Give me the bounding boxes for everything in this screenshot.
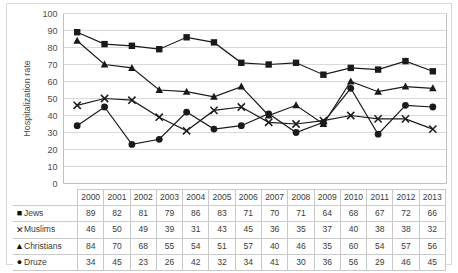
data-point [155,86,163,93]
table-column-header: 2010 [340,190,366,206]
table-cell: 26 [156,254,182,270]
table-column-header: 2007 [261,190,287,206]
table-cell: 71 [235,206,261,222]
y-axis-tick-label: 100 [42,9,57,19]
table-row: ✕Muslims4650493931434536353740383832 [13,222,446,238]
chart-svg: 0102030405060708090100Hospitalization ra… [0,0,458,190]
data-point [293,129,300,136]
table-cell: 72 [393,206,419,222]
table-cell: 68 [340,206,366,222]
line-chart: 0102030405060708090100Hospitalization ra… [0,0,458,190]
table-cell: 56 [419,238,445,254]
data-point [238,122,245,129]
series-marker-icon: ✕ [15,223,24,238]
table-cell: 54 [183,238,209,254]
data-point [238,83,246,90]
data-point [129,43,135,49]
table-cell: 67 [367,206,393,222]
table-row: ■Jews8982817986837170716468677266 [13,206,446,222]
data-point [402,83,410,90]
table-cell: 36 [261,222,287,238]
table-cell: 50 [104,222,130,238]
data-point [101,104,108,111]
data-point [347,85,354,92]
table-cell: 45 [419,254,445,270]
y-axis-tick-label: 30 [47,128,57,138]
y-axis-tick-label: 80 [47,43,57,53]
y-axis-tick-label: 10 [47,162,57,172]
series-marker-icon: ■ [15,206,24,221]
table-cell: 49 [130,222,156,238]
series-line [77,99,433,131]
table-cell: 82 [104,206,130,222]
table-row: ▲Christians8470685554515740463560545756 [13,238,446,254]
table-header-row: 2000200120022003200420052006200720082009… [13,190,446,206]
table-cell: 45 [104,254,130,270]
table-cell: 68 [130,238,156,254]
table-cell: 29 [367,254,393,270]
table-cell: 37 [314,222,340,238]
table-cell: 35 [314,238,340,254]
table-cell: 46 [78,222,104,238]
table-cell: 57 [393,238,419,254]
table-corner-cell [13,190,78,206]
data-point [429,104,436,111]
series-legend-cell: ●Druze [13,254,78,270]
table-cell: 38 [367,222,393,238]
y-axis-tick-label: 50 [47,94,57,104]
table-cell: 39 [156,222,182,238]
table-cell: 46 [288,238,314,254]
table-cell: 60 [340,238,366,254]
data-point [156,136,163,143]
series-name-label: Christians [24,241,62,251]
series-legend-cell: ✕Muslims [13,222,78,238]
table-cell: 38 [393,222,419,238]
data-table: 2000200120022003200420052006200720082009… [13,189,446,271]
table-cell: 43 [209,222,235,238]
table-cell: 79 [156,206,182,222]
data-point [375,66,381,72]
series-marker-icon: ▲ [15,239,24,254]
data-point [128,141,135,148]
series-name-label: Muslims [24,225,55,235]
table-cell: 41 [261,254,287,270]
table-cell: 57 [235,238,261,254]
data-point [429,126,436,133]
data-table-container: 2000200120022003200420052006200720082009… [13,189,446,265]
table-column-header: 2000 [78,190,104,206]
table-cell: 32 [419,222,445,238]
table-column-header: 2011 [367,190,393,206]
chart-screenshot: 0102030405060708090100Hospitalization ra… [0,0,458,273]
data-point [320,72,326,78]
data-point [238,60,244,66]
table-cell: 40 [261,238,287,254]
data-point [101,41,107,47]
data-point [402,58,408,64]
table-cell: 89 [78,206,104,222]
data-point [211,39,217,45]
table-cell: 70 [104,238,130,254]
table-cell: 45 [235,222,261,238]
table-cell: 81 [130,206,156,222]
table-cell: 35 [288,222,314,238]
table-column-header: 2004 [183,190,209,206]
data-point [375,131,382,138]
table-cell: 34 [78,254,104,270]
table-cell: 32 [209,254,235,270]
table-cell: 51 [209,238,235,254]
table-cell: 23 [130,254,156,270]
table-column-header: 2008 [288,190,314,206]
data-point [74,29,80,35]
series-name-label: Jews [24,208,43,218]
y-axis-tick-label: 40 [47,111,57,121]
table-cell: 55 [156,238,182,254]
table-column-header: 2005 [209,190,235,206]
table-column-header: 2009 [314,190,340,206]
data-point [348,65,354,71]
table-cell: 56 [340,254,366,270]
table-cell: 84 [78,238,104,254]
data-point [430,68,436,74]
table-cell: 30 [288,254,314,270]
data-point [292,101,300,108]
series-name-label: Druze [24,257,47,267]
